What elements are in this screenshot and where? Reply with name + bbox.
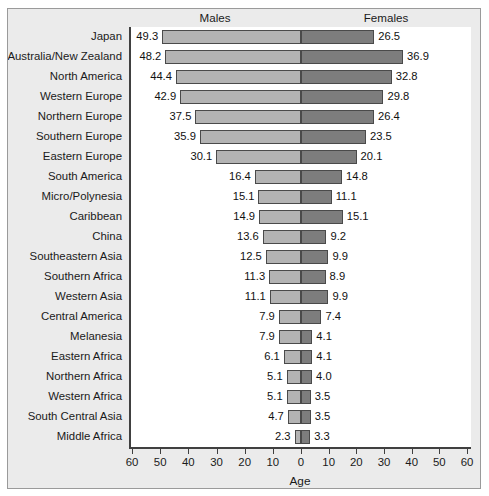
bar-male [255,170,301,184]
bar-value-male: 13.6 [207,229,259,244]
x-axis-tick-label: 30 [369,456,399,468]
x-axis-tick-label: 40 [397,456,427,468]
x-axis-tick-label: 50 [424,456,454,468]
category-label: Eastern Africa [51,347,122,367]
bar-male [284,350,301,364]
x-axis-tick-label: 50 [145,456,175,468]
bar-male [200,130,301,144]
x-axis-tick [356,447,357,454]
x-axis-title: Age [129,474,471,488]
bar-male [279,330,301,344]
x-axis-tick [412,447,413,454]
bar-value-male: 4.7 [232,409,284,424]
bar-value-male: 7.9 [223,329,275,344]
bar-female [301,330,312,344]
x-axis-tick-label: 60 [117,456,147,468]
x-axis-tick [160,447,161,454]
bar-row: 4.73.5 [129,407,471,427]
bar-male [269,270,301,284]
bar-value-female: 20.1 [361,149,383,164]
x-axis-tick [132,447,133,454]
bar-female [301,410,311,424]
column-header-females: Females [326,11,446,24]
category-label: Western Asia [55,287,122,307]
bar-row: 49.326.5 [129,27,471,47]
bar-male [259,210,301,224]
bar-female [301,310,321,324]
bar-value-male: 30.1 [160,149,212,164]
bar-value-female: 9.2 [330,229,346,244]
bar-female [301,150,357,164]
category-label: South Central Asia [28,407,122,427]
bar-female [301,250,328,264]
x-axis-tick [301,447,302,454]
bar-female [301,90,383,104]
category-label: Australia/New Zealand [7,47,122,67]
x-axis-tick [329,447,330,454]
category-label: Melanesia [70,327,122,347]
bar-value-female: 8.9 [330,269,346,284]
bar-row: 5.13.5 [129,387,471,407]
bar-male [270,290,301,304]
bar-male [263,230,301,244]
category-label: Northern Europe [38,107,122,127]
category-label: Middle Africa [57,427,122,447]
x-axis-tick-label: 60 [452,456,481,468]
bar-value-male: 5.1 [231,369,283,384]
bar-male [287,390,301,404]
bar-value-female: 3.5 [315,389,331,404]
bar-value-female: 9.9 [332,249,348,264]
x-axis-tick [245,447,246,454]
bar-row: 12.59.9 [129,247,471,267]
bar-value-male: 48.2 [109,49,161,64]
bar-row: 2.33.3 [129,427,471,447]
column-header-males: Males [155,11,275,24]
bar-female [301,190,332,204]
bar-value-female: 36.9 [407,49,429,64]
bar-value-female: 14.8 [346,169,368,184]
bar-male [258,190,301,204]
bar-row: 7.94.1 [129,327,471,347]
category-label: Central America [41,307,122,327]
bar-female [301,270,326,284]
bar-value-female: 4.0 [316,369,332,384]
bar-row: 16.414.8 [129,167,471,187]
bar-male [165,50,301,64]
bar-value-female: 26.5 [378,29,400,44]
bar-male [162,30,301,44]
category-label: Caribbean [69,207,122,227]
bar-value-female: 3.5 [315,409,331,424]
category-label: Western Africa [48,387,122,407]
bar-value-male: 12.5 [210,249,262,264]
bar-value-male: 2.3 [239,429,291,444]
x-axis-tick [217,447,218,454]
bar-value-male: 15.1 [202,189,254,204]
chart-figure: Males Females JapanAustralia/New Zealand… [7,8,481,489]
bar-female [301,70,392,84]
bar-value-male: 16.4 [199,169,251,184]
bar-value-male: 37.5 [139,109,191,124]
category-label-column: JapanAustralia/New ZealandNorth AmericaW… [8,27,126,447]
x-axis-tick-label: 0 [286,456,316,468]
bar-row: 48.236.9 [129,47,471,67]
bar-row: 37.526.4 [129,107,471,127]
x-axis: 6050403020100102030405060 Age [129,447,471,487]
x-axis-tick [467,447,468,454]
bar-value-female: 4.1 [316,329,332,344]
bar-row: 44.432.8 [129,67,471,87]
bar-value-female: 4.1 [316,349,332,364]
bar-value-male: 5.1 [231,389,283,404]
bar-row: 35.923.5 [129,127,471,147]
category-label: China [92,227,122,247]
bar-value-male: 7.9 [223,309,275,324]
bar-female [301,50,403,64]
bar-female [301,290,328,304]
x-axis-tick [439,447,440,454]
bar-value-female: 15.1 [347,209,369,224]
bar-value-male: 11.3 [213,269,265,284]
bar-value-male: 6.1 [228,349,280,364]
x-axis-tick [384,447,385,454]
bar-value-female: 32.8 [396,69,418,84]
bar-female [301,390,311,404]
bar-value-male: 44.4 [120,69,172,84]
